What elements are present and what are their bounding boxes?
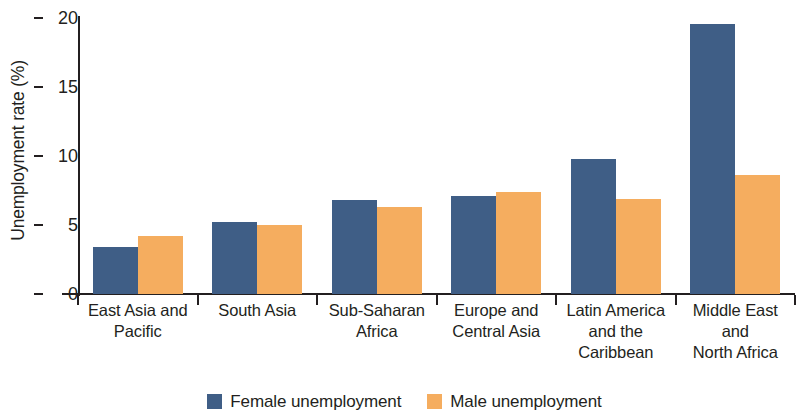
y-axis-tick-mark [34, 293, 43, 295]
x-axis-category-label: Europe andCentral Asia [437, 300, 557, 342]
y-axis-tick-mark [34, 17, 43, 19]
y-axis-tick-label: 10 [44, 147, 78, 165]
bar-male [735, 175, 780, 294]
x-axis-category-label-line: Europe and [437, 300, 557, 321]
x-axis-category-labels: East Asia andPacificSouth AsiaSub-Sahara… [78, 300, 795, 380]
legend-entry: Female unemployment [207, 393, 401, 410]
x-axis-category-label: Middle EastandNorth Africa [676, 300, 796, 363]
x-axis-category-label-line: and the [556, 321, 676, 342]
bar-female [690, 24, 735, 294]
x-axis-category-label-line: Sub-Saharan [317, 300, 437, 321]
bar-male [616, 199, 661, 294]
bar-female [212, 222, 257, 294]
x-axis-category-label-line: Middle East [676, 300, 796, 321]
x-axis-category-label: South Asia [198, 300, 318, 321]
x-axis-category-label-line: Central Asia [437, 321, 557, 342]
x-axis-category-label-line: North Africa [676, 342, 796, 363]
y-axis-title-text: Unemployment rate (%) [8, 60, 29, 241]
x-axis-category-label-line: Africa [317, 321, 437, 342]
bar-female [571, 159, 616, 294]
unemployment-rate-bar-chart: Unemployment rate (%) 05101520 East Asia… [0, 0, 809, 418]
y-axis-tick-label: 20 [44, 9, 78, 27]
legend-swatch-male [427, 394, 442, 409]
bar-male [496, 192, 541, 294]
bar-male [377, 207, 422, 294]
y-axis-ticks: 05101520 [34, 0, 78, 300]
bar-male [257, 225, 302, 294]
legend-label: Female unemployment [230, 393, 401, 410]
x-axis-category-label-line: Caribbean [556, 342, 676, 363]
x-axis-category-label: East Asia andPacific [78, 300, 198, 342]
legend-entry: Male unemployment [427, 393, 601, 410]
x-axis-category-label: Sub-SaharanAfrica [317, 300, 437, 342]
x-axis-category-label-line: and [676, 321, 796, 342]
y-axis-tick-label: 0 [44, 285, 78, 303]
bar-male [138, 236, 183, 294]
y-axis-title: Unemployment rate (%) [0, 0, 36, 300]
y-axis-tick-mark [34, 155, 43, 157]
x-axis-category-label-line: East Asia and [78, 300, 198, 321]
x-axis-category-label-line: Latin America [556, 300, 676, 321]
legend-swatch-female [207, 394, 222, 409]
x-axis-category-label: Latin Americaand theCaribbean [556, 300, 676, 363]
chart-legend: Female unemploymentMale unemployment [0, 388, 809, 414]
bar-female [93, 247, 138, 294]
x-axis-category-label-line: South Asia [198, 300, 318, 321]
legend-label: Male unemployment [450, 393, 601, 410]
y-axis-tick-label: 15 [44, 78, 78, 96]
plot-area-bars [78, 18, 795, 294]
y-axis-tick-label: 5 [44, 216, 78, 234]
bar-female [332, 200, 377, 294]
y-axis-tick-mark [34, 86, 43, 88]
x-axis-category-label-line: Pacific [78, 321, 198, 342]
y-axis-tick-mark [34, 224, 43, 226]
bar-female [451, 196, 496, 294]
